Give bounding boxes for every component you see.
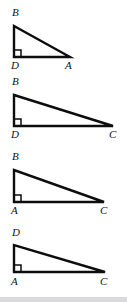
triangle-1-shape — [0, 22, 127, 62]
triangle-3-vertex-label-top: B — [12, 151, 19, 162]
bottom-margin-fill — [0, 302, 127, 306]
triangle-3-outline — [14, 170, 104, 202]
triangle-1-vertex-label-top: B — [12, 7, 19, 18]
triangle-2-shape — [0, 91, 127, 131]
triangle-4-vertex-label-top: D — [12, 227, 20, 238]
triangle-1-vertex-label-bottom-right: A — [65, 60, 72, 71]
triangle-4-vertex-label-bottom-right: C — [100, 276, 107, 287]
triangle-4-shape — [0, 241, 127, 279]
triangle-2-vertex-label-top: B — [12, 76, 19, 87]
triangle-1-outline — [14, 26, 70, 57]
triangle-3-shape — [0, 166, 127, 206]
triangle-2-vertex-label-bottom-right: C — [109, 129, 116, 140]
triangle-2-outline — [14, 95, 113, 126]
triangle-2-vertex-label-bottom-left: D — [11, 129, 19, 140]
triangle-4-vertex-label-bottom-left: A — [11, 276, 18, 287]
triangle-1-vertex-label-bottom-left: D — [11, 60, 19, 71]
triangle-3-vertex-label-bottom-left: A — [11, 205, 18, 216]
triangle-3-vertex-label-bottom-right: C — [100, 205, 107, 216]
geometry-figure-canvas: B D A B D C B A C D A C — [0, 0, 127, 306]
triangle-4-outline — [14, 245, 105, 272]
